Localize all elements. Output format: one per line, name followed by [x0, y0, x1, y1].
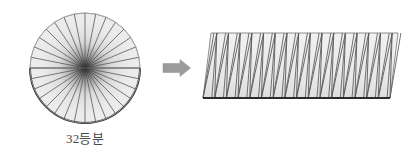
figure-container: 32등분 — [0, 0, 413, 155]
sector-circle — [30, 13, 140, 123]
rearranged-rectangle — [203, 33, 401, 98]
arrow-shape — [163, 60, 191, 77]
figure-caption: 32등분 — [0, 131, 170, 146]
transform-arrow — [163, 60, 191, 77]
